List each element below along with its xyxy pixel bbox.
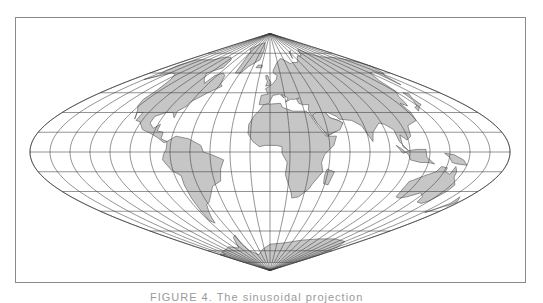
landmass-south-america	[163, 136, 224, 223]
landmass-north-america	[135, 57, 232, 143]
graticule-layer	[30, 34, 510, 271]
landmass-greenland	[235, 43, 265, 73]
figure-caption: FIGURE 4. The sinusoidal projection	[150, 291, 410, 303]
